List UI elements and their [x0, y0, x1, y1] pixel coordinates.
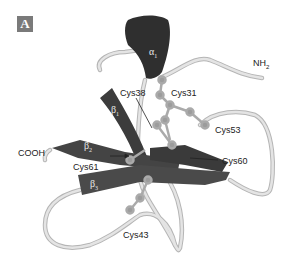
c-terminus-label: COOH — [18, 148, 45, 158]
beta2-sub: 2 — [89, 147, 92, 153]
alpha1-sub: 1 — [154, 53, 157, 59]
beta3-strand — [78, 165, 230, 195]
cys31-label: Cys31 — [171, 88, 197, 98]
cys61-label: Cys61 — [73, 162, 99, 172]
cys53-label: Cys53 — [215, 125, 241, 135]
beta1-sub: 1 — [116, 111, 119, 117]
cys60-label: Cys60 — [222, 156, 248, 166]
beta3-sub: 3 — [95, 185, 98, 191]
nh2-sub: 2 — [266, 64, 269, 70]
n-terminus-label: NH2 — [253, 58, 269, 70]
alpha1-helix — [125, 16, 170, 79]
cys43-label: Cys43 — [123, 230, 149, 240]
alpha1-label: α1 — [149, 46, 157, 59]
beta1-label: β1 — [111, 104, 119, 117]
cys38-label: Cys38 — [120, 88, 146, 98]
beta3-label: β3 — [90, 178, 98, 191]
nh-text: NH — [253, 58, 266, 68]
protein-ribbon-diagram — [0, 0, 291, 265]
beta2-label: β2 — [84, 140, 92, 153]
